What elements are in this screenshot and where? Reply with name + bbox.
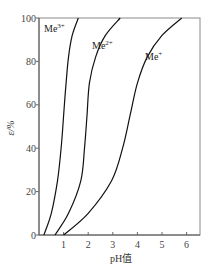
y-tick-label: 20 [26,186,36,197]
x-tick-label: 2 [86,239,91,250]
y-axis-title: ε/% [5,120,16,135]
x-tick-label: 5 [160,239,165,250]
x-tick-label: 4 [135,239,140,250]
y-axis-ticks: 020406080100 [21,13,39,241]
label-meplus: Me+ [145,50,162,62]
y-tick-label: 100 [21,13,36,24]
curve-meplus [64,18,182,235]
x-tick-label: 6 [184,239,189,250]
series-labels: Me3+Me2+Me+ [44,22,162,62]
y-tick-label: 40 [26,143,36,154]
curve-me2plus [55,18,120,235]
x-tick-label: 1 [61,239,66,250]
label-me2plus: Me2+ [92,39,113,51]
y-tick-label: 60 [26,99,36,110]
label-me3plus: Me3+ [44,22,65,34]
x-tick-label: 3 [110,239,115,250]
y-tick-label: 0 [31,230,36,241]
x-axis-title: pH值 [110,252,132,264]
y-tick-label: 80 [26,56,36,67]
extraction-ph-chart: 020406080100 123456 Me3+Me2+Me+ pH值 ε/% [0,0,216,269]
